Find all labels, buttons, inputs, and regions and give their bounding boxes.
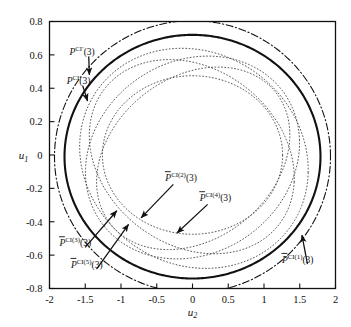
x-tick-label: -0.5: [148, 294, 165, 305]
y-tick-label: 0.6: [29, 50, 42, 61]
x-tick-label: -2: [45, 294, 54, 305]
leader-arrow-a1: [89, 56, 90, 74]
contour-plot: 0.80.60.40.20-0.2-0.4-0.6-0.8-2-1.5-1-0.…: [0, 0, 351, 327]
x-tick-label: 2: [333, 294, 338, 305]
y-tick-label: 0.8: [29, 16, 42, 27]
y-tick-label: 0: [37, 150, 42, 161]
y-tick-label: -0.6: [26, 250, 43, 261]
y-tick-label: 0.2: [29, 116, 42, 127]
y-tick-label: -0.8: [26, 283, 43, 294]
y-tick-label: 0.4: [29, 83, 43, 94]
x-tick-label: 0.5: [222, 294, 235, 305]
x-tick-label: 1.5: [293, 294, 306, 305]
x-tick-label: -1: [117, 294, 126, 305]
y-tick-label: -0.2: [26, 183, 43, 194]
y-tick-label: -0.4: [26, 217, 43, 228]
x-tick-label: -1.5: [77, 294, 94, 305]
x-tick-label: 0: [190, 294, 195, 305]
figure-container: 0.80.60.40.20-0.2-0.4-0.6-0.8-2-1.5-1-0.…: [0, 0, 351, 327]
x-tick-label: 1: [261, 294, 266, 305]
